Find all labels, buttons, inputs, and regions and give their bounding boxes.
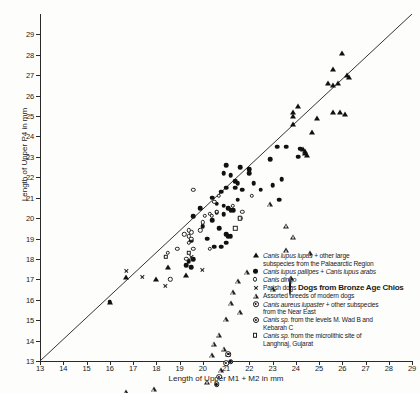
data-point-filled-circle (205, 236, 210, 241)
data-point-filled-circle (268, 157, 273, 162)
y-tick-label: 19 (26, 234, 34, 243)
data-point-open-triangle (211, 341, 217, 346)
legend-label: Assorted breeds of modern dogs (263, 292, 420, 300)
legend-entry: Assorted breeds of modern dogs (252, 292, 420, 300)
data-point-filled-circle (296, 155, 301, 160)
data-point-cross (140, 274, 145, 279)
x-tick-label: 26 (338, 364, 346, 373)
data-point-filled-circle (238, 165, 243, 170)
legend-label: Canis aureus lupaster + other subspecies (263, 301, 420, 309)
data-point-filled-circle (233, 185, 238, 190)
data-point-filled-circle (284, 144, 289, 149)
x-tick-label: 24 (292, 364, 300, 373)
y-tick-label: 16 (26, 295, 34, 304)
data-point-open-triangle (237, 310, 243, 315)
data-point-square (238, 216, 242, 220)
data-point-filled-circle (259, 187, 264, 192)
data-point-filled-triangle (346, 75, 352, 80)
y-tick-label: 28 (26, 50, 34, 59)
data-point-open-circle (217, 193, 221, 197)
data-point-open-circle (175, 247, 179, 251)
x-tick-label: 13 (36, 364, 44, 373)
legend-label-part: + (319, 268, 326, 275)
legend-label-part: Canis sp. (263, 332, 289, 339)
data-point-filled-triangle (153, 277, 159, 282)
data-point-filled-circle (270, 183, 275, 188)
data-point-filled-circle (231, 208, 236, 213)
x-tick-label: 27 (362, 364, 370, 373)
legend-label: Canis sp. from the microlithic site of (263, 332, 420, 340)
data-point-filled-triangle (342, 112, 348, 117)
data-point-filled-triangle (295, 103, 301, 108)
legend-label-part: Canis lupus pallipes (263, 268, 319, 275)
legend-label-part: Canis sp. (263, 316, 289, 323)
x-tick-label: 18 (152, 364, 160, 373)
legend-marker-icon (253, 333, 257, 337)
data-point-open-triangle (290, 234, 296, 239)
legend-label-part: from the levels M. Wad B and (289, 316, 373, 323)
x-tick-label: 20 (199, 364, 207, 373)
data-point-filled-circle (219, 244, 224, 249)
data-point-filled-circle (189, 265, 194, 270)
data-point-filled-triangle (290, 114, 296, 119)
y-tick-label: 29 (26, 30, 34, 39)
y-tick-label: 17 (26, 275, 34, 284)
data-point-filled-triangle (330, 109, 336, 114)
data-point-open-triangle (151, 387, 157, 392)
data-point-filled-triangle (339, 50, 345, 55)
data-point-open-triangle (267, 202, 273, 207)
data-point-open-circle (191, 187, 195, 191)
legend-label-part: from the microlithic site of (289, 332, 361, 339)
data-point-filled-circle (235, 197, 240, 202)
data-point-open-triangle (244, 269, 250, 274)
scatter-plot-figure: 1314151617181920212223242526272829 13141… (0, 0, 420, 393)
data-point-open-triangle (235, 278, 241, 283)
data-point-target (226, 351, 232, 357)
data-point-filled-circle (228, 234, 233, 239)
data-point-filled-triangle (123, 275, 129, 280)
data-point-filled-circle (224, 240, 229, 245)
data-point-filled-circle (275, 144, 280, 149)
data-point-target (216, 374, 222, 380)
data-point-open-triangle (216, 332, 222, 337)
data-point-filled-triangle (309, 130, 315, 135)
data-point-filled-circle (228, 173, 233, 178)
data-point-square (187, 251, 191, 255)
legend-label: subspecies from the Palaearctic Region (263, 260, 420, 268)
data-point-filled-triangle (304, 152, 310, 157)
data-point-filled-circle (191, 214, 196, 219)
legend-marker-icon (253, 301, 259, 307)
data-point-open-triangle (209, 353, 215, 358)
data-point-cross (200, 268, 205, 273)
chios-annotation: Dogs from Bronze Age Chios (298, 283, 404, 292)
data-point-filled-circle (210, 218, 215, 223)
data-point-open-circle (240, 210, 244, 214)
legend-label: Canis lupus pallipes + Canis lupus arabs (263, 268, 420, 276)
data-point-open-triangle (204, 379, 210, 384)
data-point-filled-circle (198, 206, 203, 211)
data-point-filled-circle (212, 244, 217, 249)
legend-entry: Canis sp. from the microlithic site ofLa… (252, 332, 420, 347)
x-tick-label: 22 (245, 364, 253, 373)
legend-entry: Canis lupus lupus + other largesubspecie… (252, 252, 420, 267)
data-point-filled-triangle (330, 67, 336, 72)
data-point-open-circle (168, 277, 172, 281)
data-point-open-circle (249, 193, 253, 197)
legend-label-part: Canis dingo (263, 276, 296, 283)
legend-marker-icon (253, 253, 259, 258)
data-point-filled-triangle (330, 83, 336, 88)
y-tick-label: 20 (26, 214, 34, 223)
legend-label-part: + other large (313, 252, 350, 259)
data-point-open-triangle (218, 368, 224, 373)
y-tick-label: 27 (26, 71, 34, 80)
data-point-filled-circle (298, 146, 303, 151)
y-tick-label: 14 (26, 336, 34, 345)
x-tick-label: 17 (129, 364, 137, 373)
data-point-filled-triangle (165, 265, 171, 270)
data-point-filled-circle (247, 171, 252, 176)
data-point-open-triangle (228, 301, 234, 306)
data-point-target (223, 360, 229, 366)
data-point-filled-circle (221, 212, 226, 217)
legend-label-part: Canis lupus arabs (326, 268, 376, 275)
data-point-open-circle (191, 247, 195, 251)
